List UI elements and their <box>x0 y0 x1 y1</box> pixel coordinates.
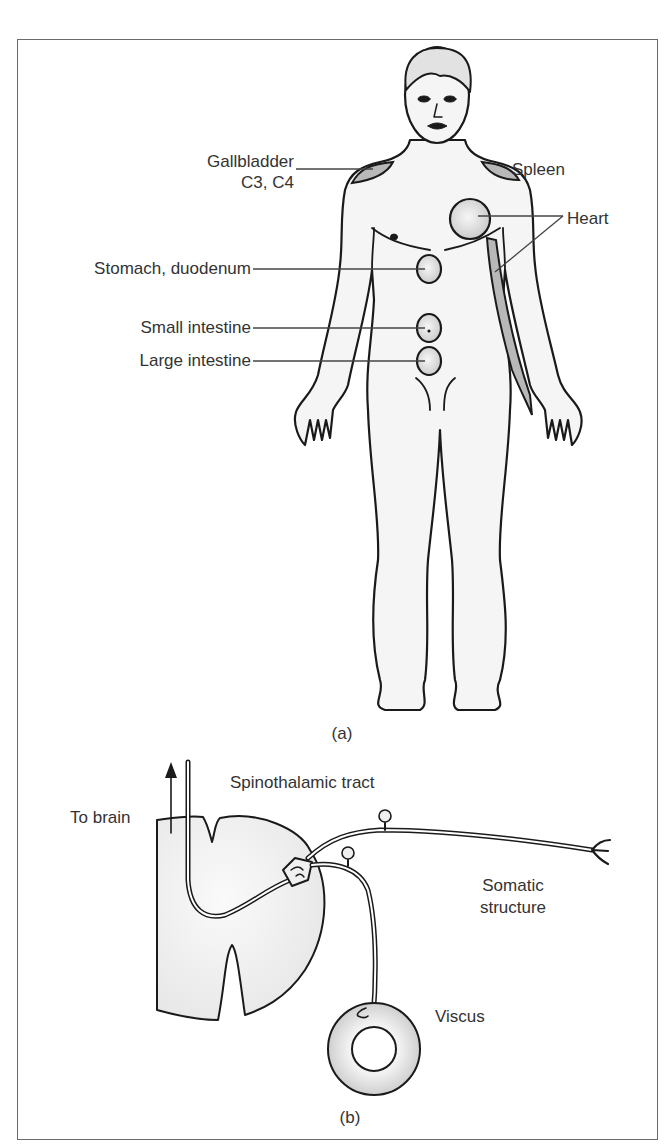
label-viscus: Viscus <box>435 1007 485 1027</box>
label-gallbladder: Gallbladder <box>150 152 294 172</box>
visceral-ganglion <box>342 847 354 859</box>
label-spleen: Spleen <box>512 160 565 180</box>
viscus-lumen <box>352 1027 396 1071</box>
label-stomach-duodenum: Stomach, duodenum <box>40 259 251 279</box>
label-large-intestine: Large intestine <box>40 351 251 371</box>
label-small-intestine: Small intestine <box>40 318 251 338</box>
label-structure: structure <box>458 898 568 918</box>
label-to-brain: To brain <box>70 808 130 828</box>
somatic-ganglion <box>379 810 391 822</box>
heart-circle <box>450 199 490 239</box>
label-heart: Heart <box>567 209 609 229</box>
spinal-cord-diagram <box>157 762 610 1095</box>
caption-b: (b) <box>330 1108 370 1128</box>
somatic-receptor <box>592 840 610 864</box>
caption-a: (a) <box>322 724 362 744</box>
label-somatic: Somatic <box>458 876 568 896</box>
label-spinothalamic-tract: Spinothalamic tract <box>230 773 375 793</box>
body-outline <box>295 140 582 710</box>
human-body-figure <box>295 47 582 710</box>
spinal-cord-section <box>157 816 324 1020</box>
label-gallbladder-segments: C3, C4 <box>150 173 294 193</box>
